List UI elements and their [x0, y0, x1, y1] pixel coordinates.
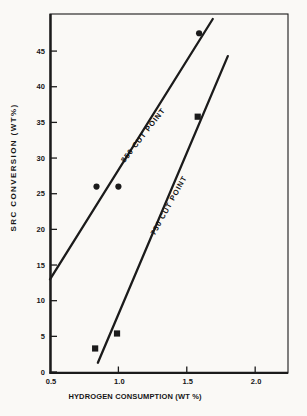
x-tick-label: 2.0 [251, 377, 262, 386]
x-tick-label: 1.5 [182, 377, 193, 386]
data-point-circle-850-cut-point [115, 183, 121, 189]
x-tick-label: 0.5 [46, 377, 57, 386]
figure: 0510152025303540450.51.01.52.0850 CUT PO… [0, 0, 307, 416]
y-tick-label: 0 [41, 368, 45, 377]
data-point-square-750-cut-point [114, 330, 120, 336]
x-tick-label: 1.0 [114, 377, 125, 386]
y-tick-label: 40 [36, 82, 45, 91]
data-point-circle-850-cut-point [196, 30, 202, 36]
y-tick-label: 25 [36, 189, 45, 198]
y-tick-label: 45 [36, 47, 45, 56]
y-tick-label: 15 [36, 261, 45, 270]
y-tick-label: 35 [36, 118, 45, 127]
y-tick-label: 10 [36, 296, 45, 305]
data-point-square-750-cut-point [92, 345, 98, 351]
data-point-square-750-cut-point [195, 114, 201, 120]
y-axis-title: SRC CONVERSION (WT%) [9, 88, 18, 248]
y-tick-label: 30 [36, 154, 45, 163]
line-label-850-cut-point: 850 CUT POINT [119, 106, 167, 164]
chart-plot-area: 0510152025303540450.51.01.52.0850 CUT PO… [0, 0, 307, 416]
data-point-circle-850-cut-point [93, 183, 99, 189]
line-label-750-cut-point: 750 CUT POINT [149, 174, 189, 237]
y-tick-label: 5 [41, 332, 45, 341]
x-axis-title: HYDROGEN CONSUMPTION (WT %) [55, 392, 215, 401]
y-tick-label: 20 [36, 225, 45, 234]
